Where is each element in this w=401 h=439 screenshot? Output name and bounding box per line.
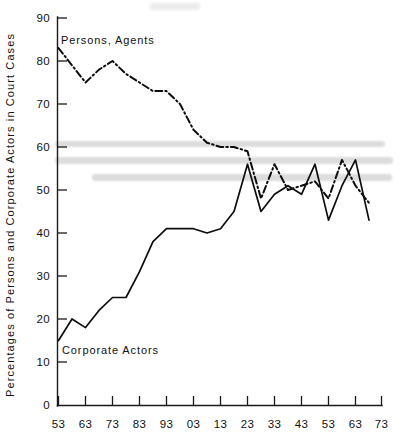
y-tick-label: 60	[36, 141, 50, 153]
x-tick-label: 93	[160, 418, 174, 430]
x-tick-label: 63	[79, 418, 93, 430]
x-tick-label: 03	[187, 418, 201, 430]
x-tick-marks	[59, 396, 382, 406]
series-line-persons-agents	[59, 48, 370, 203]
chart-container: 90 80 70 60 50 40 30 20 10 0 53 63 73 83…	[0, 0, 401, 439]
y-tick-label: 40	[36, 227, 50, 239]
y-tick-label: 90	[36, 12, 50, 24]
y-tick-label: 70	[36, 98, 50, 110]
chart-plot: 90 80 70 60 50 40 30 20 10 0 53 63 73 83…	[0, 0, 401, 439]
x-tick-label: 73	[375, 418, 389, 430]
x-tick-labels: 53 63 73 83 93 03 13 23 33 43 53 63 73	[52, 418, 389, 430]
series-label-corporate-actors: Corporate Actors	[62, 344, 159, 356]
x-tick-label: 63	[349, 418, 363, 430]
y-tick-label: 50	[36, 184, 50, 196]
x-tick-label: 73	[106, 418, 120, 430]
x-tick-label: 13	[214, 418, 228, 430]
x-tick-label: 43	[295, 418, 309, 430]
x-tick-label: 33	[268, 418, 282, 430]
y-tick-label: 80	[36, 55, 50, 67]
y-axis-title: Percentages of Persons and Corporate Act…	[4, 33, 16, 397]
series-line-corporate-actors	[59, 160, 370, 341]
y-tick-label: 10	[36, 356, 50, 368]
x-tick-label: 53	[322, 418, 336, 430]
y-tick-label: 20	[36, 313, 50, 325]
y-tick-label: 30	[36, 270, 50, 282]
x-tick-label: 53	[52, 418, 66, 430]
x-tick-label: 83	[133, 418, 147, 430]
y-tick-label: 0	[43, 399, 50, 411]
series-label-persons-agents: Persons, Agents	[61, 34, 155, 46]
y-tick-labels: 90 80 70 60 50 40 30 20 10 0	[36, 12, 50, 411]
y-tick-marks	[58, 18, 68, 362]
x-tick-label: 23	[241, 418, 255, 430]
